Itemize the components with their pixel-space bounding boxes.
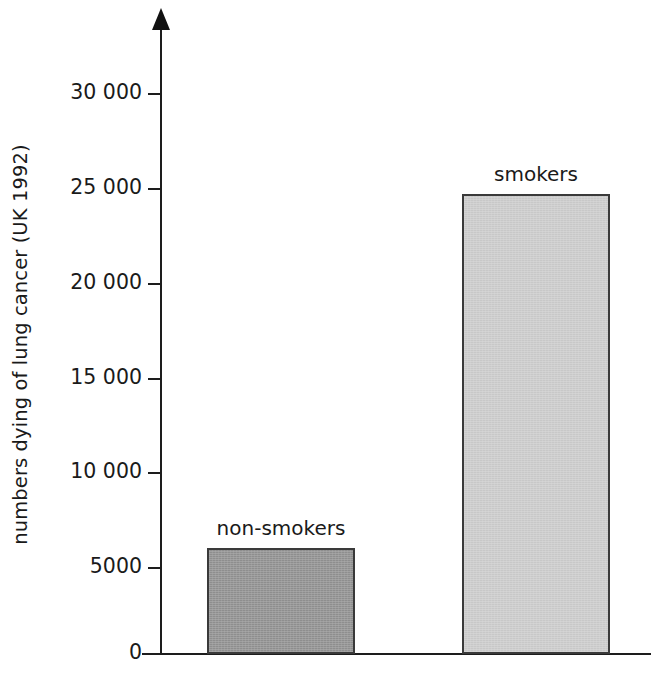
bar-chart: numbers dying of lung cancer (UK 1992) 3… <box>0 0 656 689</box>
bar-non-smokers[interactable] <box>207 548 355 654</box>
y-tick-label: 25 000 <box>0 177 142 198</box>
y-tick-label: 30 000 <box>0 82 142 103</box>
y-axis-title: numbers dying of lung cancer (UK 1992) <box>0 0 40 689</box>
y-tick-label: 15 000 <box>0 367 142 388</box>
y-tick-mark <box>148 378 161 380</box>
bar-label-smokers: smokers <box>462 164 610 184</box>
y-tick-mark <box>148 567 161 569</box>
bar-smokers[interactable] <box>462 194 610 654</box>
y-tick-mark <box>148 188 161 190</box>
y-axis-line <box>160 22 162 655</box>
y-tick-mark <box>148 93 161 95</box>
y-tick-mark <box>148 472 161 474</box>
bar-label-non-smokers: non-smokers <box>207 518 355 538</box>
y-tick-mark <box>148 653 161 655</box>
y-tick-label: 10 000 <box>0 461 142 482</box>
y-axis-arrow-icon <box>152 8 170 30</box>
y-tick-label: 0 <box>0 642 142 663</box>
y-tick-mark <box>148 283 161 285</box>
y-tick-label: 5000 <box>0 556 142 577</box>
y-tick-label: 20 000 <box>0 272 142 293</box>
